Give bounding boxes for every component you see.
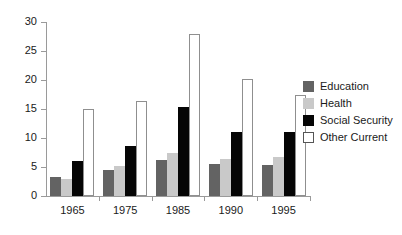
x-axis-tick-label: 1990 <box>219 204 243 217</box>
plot-area: 051015202530 19651975198519901995 <box>46 18 310 200</box>
y-axis-tick-label: 10 <box>25 131 37 144</box>
bar <box>189 34 200 196</box>
x-axis-tick-label: 1985 <box>166 204 190 217</box>
y-axis-tick: 15 <box>41 109 46 110</box>
bar <box>242 79 253 196</box>
x-axis-line <box>46 196 310 197</box>
y-axis-tick: 5 <box>41 167 46 168</box>
y-axis-tick: 0 <box>41 196 46 197</box>
y-axis-tick: 30 <box>41 22 46 23</box>
y-axis-tick: 10 <box>41 138 46 139</box>
y-axis-tick: 20 <box>41 80 46 81</box>
bar <box>125 146 136 196</box>
legend-item[interactable]: Social Security <box>303 113 399 128</box>
y-axis-tick-label: 20 <box>25 73 37 86</box>
chart-legend: EducationHealthSocial SecurityOther Curr… <box>303 79 399 147</box>
x-axis-separator <box>310 196 311 201</box>
bar <box>114 166 125 196</box>
bar <box>156 160 167 196</box>
y-axis-tick-label: 30 <box>25 15 37 28</box>
legend-item-label: Social Security <box>320 114 393 127</box>
bar <box>284 132 295 196</box>
y-axis-tick-label: 0 <box>31 189 37 202</box>
bar-group: 1990 <box>209 22 253 196</box>
x-axis-separator <box>152 196 153 201</box>
y-axis-tick-label: 5 <box>31 160 37 173</box>
bar <box>50 177 61 196</box>
legend-item-label: Health <box>320 97 352 110</box>
bar-group: 1995 <box>262 22 306 196</box>
legend-item[interactable]: Health <box>303 96 399 111</box>
bar <box>167 153 178 197</box>
bar <box>220 159 231 196</box>
legend-item[interactable]: Other Current <box>303 130 399 145</box>
bar <box>83 109 94 196</box>
legend-swatch-icon <box>303 81 314 92</box>
bar <box>273 157 284 196</box>
legend-item-label: Other Current <box>320 131 387 144</box>
bar-chart: 051015202530 19651975198519901995 Educat… <box>0 0 402 235</box>
bar <box>209 164 220 196</box>
bar <box>262 165 273 196</box>
x-axis-tick-label: 1975 <box>113 204 137 217</box>
bar <box>72 161 83 196</box>
x-axis-separator <box>99 196 100 201</box>
bar <box>231 132 242 196</box>
legend-swatch-icon <box>303 115 314 126</box>
x-axis-tick-label: 1965 <box>60 204 84 217</box>
legend-item[interactable]: Education <box>303 79 399 94</box>
legend-item-label: Education <box>320 80 369 93</box>
bar <box>136 101 147 196</box>
legend-swatch-icon <box>303 132 314 143</box>
legend-swatch-icon <box>303 98 314 109</box>
y-axis-line <box>46 22 47 196</box>
x-axis-tick-label: 1995 <box>271 204 295 217</box>
bar-group: 1965 <box>50 22 94 196</box>
bar <box>103 170 114 196</box>
x-axis-separator <box>204 196 205 201</box>
bar-group: 1975 <box>103 22 147 196</box>
y-axis-tick: 25 <box>41 51 46 52</box>
bar-group: 1985 <box>156 22 200 196</box>
x-axis-separator <box>257 196 258 201</box>
y-axis-tick-label: 25 <box>25 44 37 57</box>
y-axis-tick-label: 15 <box>25 102 37 115</box>
bar <box>178 107 189 196</box>
bar <box>61 179 72 196</box>
